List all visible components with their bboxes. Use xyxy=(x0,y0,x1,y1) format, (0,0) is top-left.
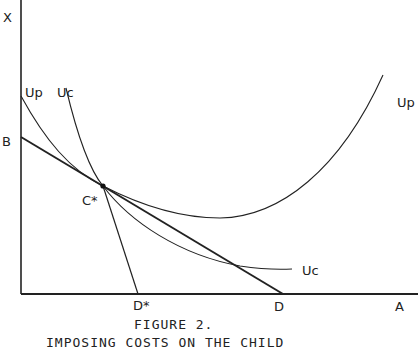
child-indifference-curve xyxy=(66,88,292,269)
figure-number: FIGURE 2. xyxy=(134,318,213,331)
tangency-label: C* xyxy=(82,194,98,207)
child-curve-label-top: Uc xyxy=(57,86,74,99)
parent-curve-label-left: Up xyxy=(25,86,43,99)
x-intercept-label: D xyxy=(274,300,284,313)
y-intercept-label: B xyxy=(2,135,11,148)
x-axis-label: A xyxy=(395,300,404,313)
parent-curve-label-right: Up xyxy=(397,96,415,109)
x-star-label: D* xyxy=(133,299,150,312)
y-axis-label: X xyxy=(3,11,12,24)
tangency-point xyxy=(100,183,105,188)
budget-line-cstar-dstar xyxy=(103,186,138,294)
child-curve-label-bottom: Uc xyxy=(302,264,319,277)
figure-caption: IMPOSING COSTS ON THE CHILD xyxy=(46,336,284,349)
parent-indifference-curve xyxy=(21,75,383,218)
